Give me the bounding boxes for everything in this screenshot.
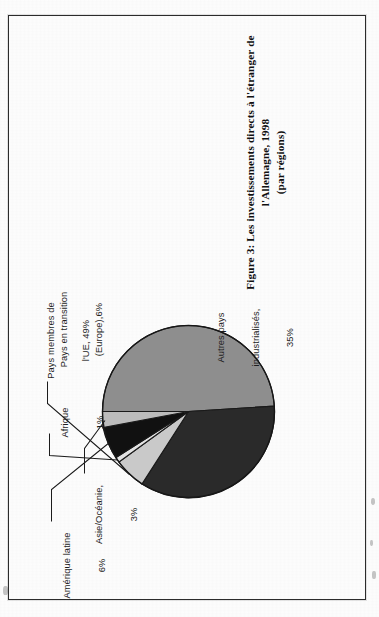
slice-label-line: 1% [94, 395, 106, 449]
slice-label-line: Asie/Océanie, [94, 473, 106, 555]
slice-label-asie-oceanie: Asie/Océanie, 3% [71, 473, 163, 555]
scan-artifact-smudge [370, 540, 373, 546]
slice-label-line: Pays en transition [59, 278, 71, 380]
slice-label-autres-pays-industrialises: Autres pays industrialisés, 35% [193, 289, 320, 385]
slice-label-line: Afrique [60, 395, 72, 449]
scan-artifact-smudge [371, 498, 375, 505]
figure-caption-line1: Figure 3: Les investissements directs à … [244, 35, 271, 289]
scanned-page: Pays membres de l'UE, 49% Autres pays in… [0, 0, 379, 617]
slice-label-line: (Europe),6% [93, 278, 105, 380]
slice-label-line: 35% [285, 289, 297, 385]
figure-caption-line2: (par régions) [273, 23, 288, 301]
slice-label-pays-en-transition: Pays en transition (Europe),6% [36, 278, 128, 380]
scan-artifact-smudge [372, 571, 376, 579]
slice-label-afrique: Afrique 1% [37, 395, 129, 449]
slice-label-line: Autres pays [216, 289, 228, 385]
slice-label-line: industrialisés, [250, 289, 262, 385]
slice-label-line: 3% [128, 473, 140, 555]
scan-artifact-smudge [3, 586, 8, 595]
figure-stage: Pays membres de l'UE, 49% Autres pays in… [11, 16, 369, 601]
figure-caption: Figure 3: Les investissements directs à … [243, 23, 288, 301]
